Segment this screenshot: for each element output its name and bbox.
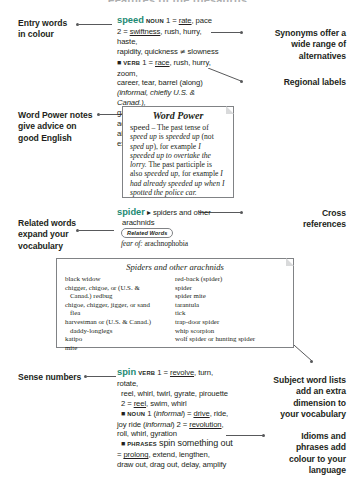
word-power-body: speed – The past tense of speed up is sp… bbox=[123, 123, 233, 200]
entry-spider-xref-cont[interactable]: arachnids bbox=[117, 218, 227, 228]
entry-spider: spider ▸ spiders and other arachnids bbox=[117, 208, 227, 228]
word-power-title: Word Power bbox=[123, 110, 233, 121]
entry-spin-phrases-line: ■ PHRASES spin something out bbox=[117, 439, 233, 450]
spiders-list-columns: black widowchigger, chigoe, or (U.S. &Ca… bbox=[57, 275, 293, 356]
entry-spin-phrase-def-2: draw out, drag out, delay, amplify bbox=[117, 460, 233, 470]
entry-spin-pos-noun-line: ■ NOUN 1 (informal) = drive, ride, bbox=[117, 409, 233, 420]
spiders-list-item: chigger, chigoe, or (U.S. & bbox=[65, 284, 175, 293]
related-words-pill[interactable]: Related Words bbox=[121, 228, 173, 238]
spiders-list-item: tarantula bbox=[175, 301, 285, 310]
entry-speed-pos-verb-line: ■ VERB 1 = race, rush, hurry, zoom, bbox=[117, 58, 222, 79]
word-power-headword: speed bbox=[130, 122, 150, 132]
entry-speed-sense-2: 2 = swiftness, rush, hurry, haste, bbox=[117, 27, 222, 47]
callout-related-words-line bbox=[79, 230, 114, 231]
related-fear-of-value: arachnophobia bbox=[143, 239, 188, 248]
thesaurus-features-diagram: Features of the thesaurus Entry words in… bbox=[0, 0, 355, 489]
spiders-list-box: Spiders and other arachnids black widowc… bbox=[56, 258, 294, 348]
pos-verb-spin: VERB bbox=[138, 370, 155, 376]
callout-subject-lists-label: Subject word lists add an extra dimensio… bbox=[273, 375, 346, 419]
headword-spider[interactable]: spider bbox=[117, 207, 145, 217]
spiders-list-title: Spiders and other arachnids bbox=[57, 262, 293, 272]
entry-speed-line-headword: speed NOUN 1 = rate, pace bbox=[117, 16, 222, 27]
entry-spin-noun-cont-1: joy ride (informal) 2 = revolution, bbox=[117, 420, 233, 430]
spiders-list-item: whip scorpion bbox=[175, 327, 285, 336]
callout-entry-words-label: Entry words in colour bbox=[18, 18, 67, 39]
entry-spin-verb-cont-1: reel, whirl, twirl, gyrate, pirouette bbox=[117, 389, 233, 399]
bullet-icon: ■ bbox=[121, 410, 125, 417]
entry-spin-phrase-head: spin something out bbox=[159, 438, 233, 448]
bullet-icon: ■ bbox=[117, 59, 121, 66]
entry-spider-related-text: fear of: arachnophobia bbox=[121, 239, 241, 249]
callout-regional: Regional labels bbox=[246, 77, 346, 88]
callout-entry-words: Entry words in colour bbox=[18, 18, 100, 41]
callout-related-words: Related words expand your vocabulary bbox=[18, 218, 100, 252]
spiders-list-item: black widow bbox=[65, 275, 175, 284]
spiders-list-item: tick bbox=[175, 309, 285, 318]
spiders-list-column-left: black widowchigger, chigoe, or (U.S. &Ca… bbox=[65, 275, 175, 352]
page-title: Features of the thesaurus bbox=[0, 0, 355, 2]
spiders-list-item: spider bbox=[175, 284, 285, 293]
callout-cross-references-label: Cross references bbox=[303, 208, 346, 229]
callout-sense-numbers-line bbox=[87, 376, 116, 377]
entry-speed-verb-cont-1: career, tear, barrel (along) bbox=[117, 78, 222, 88]
entry-spin-phrase-def-1: = prolong, extend, lengthen, bbox=[117, 450, 233, 460]
spiders-list-column-right: red-back (spider)spiderspider mitetarant… bbox=[175, 275, 285, 352]
callout-subject-lists: Subject word lists add an extra dimensio… bbox=[240, 375, 346, 421]
callout-cross-references: Cross references bbox=[246, 208, 346, 231]
entry-speed-sense-2-cont: rapidity, quickness ≠ slowness bbox=[117, 47, 222, 58]
related-fear-of-label: fear of: bbox=[121, 239, 143, 248]
spiders-list-item: Canad.) redbug bbox=[65, 292, 175, 301]
callout-idioms-label: Idioms and phrases add colour to your la… bbox=[289, 431, 346, 475]
spiders-list-item: spider mite bbox=[175, 292, 285, 301]
word-power-text: – The past tense of speed up is speeded … bbox=[130, 123, 224, 197]
entry-spin: spin VERB 1 = revolve, turn, rotate, ree… bbox=[117, 368, 233, 470]
callout-related-words-label: Related words expand your vocabulary bbox=[18, 218, 76, 251]
callout-sense-numbers-label: Sense numbers bbox=[18, 372, 81, 382]
headword-speed[interactable]: speed bbox=[117, 15, 144, 25]
spiders-list-item: katipo bbox=[65, 335, 175, 344]
entry-spin-noun-sense-1: 1 (informal) = drive, ride, bbox=[147, 409, 228, 418]
spiders-list-item: wolf spider or hunting spider bbox=[175, 335, 285, 344]
spiders-list-item: harvestman or (U.S. & Canad.) bbox=[65, 318, 175, 327]
spiders-list-item: mite bbox=[65, 344, 175, 353]
callout-synonyms-label: Synonyms offer a wide range of alternati… bbox=[275, 28, 346, 61]
pos-noun: NOUN bbox=[146, 18, 164, 24]
bullet-icon: ■ bbox=[121, 440, 125, 447]
entry-spin-verb-sense-2: 2 = reel, swim, whirl bbox=[117, 399, 233, 409]
callout-sense-numbers: Sense numbers bbox=[18, 372, 100, 383]
callout-entry-words-line bbox=[79, 24, 112, 25]
word-power-box-fold bbox=[226, 106, 234, 114]
callout-regional-label: Regional labels bbox=[284, 77, 346, 87]
spiders-list-item: daddy-longlegs bbox=[65, 327, 175, 336]
entry-spin-headline: spin VERB 1 = revolve, turn, rotate, bbox=[117, 368, 233, 389]
spiders-list-item: trap-door spider bbox=[175, 318, 285, 327]
pos-phrases: PHRASES bbox=[127, 441, 157, 447]
headword-spin[interactable]: spin bbox=[117, 367, 136, 377]
word-power-box: Word Power speed – The past tense of spe… bbox=[122, 106, 234, 198]
spiders-list-item: chigoe, chigger, jigger, or sand bbox=[65, 301, 175, 310]
entry-spider-headline: spider ▸ spiders and other bbox=[117, 208, 227, 218]
spiders-list-item: red-back (spider) bbox=[175, 275, 285, 284]
callout-word-power-label: Word Power notes give advice on good Eng… bbox=[18, 110, 92, 143]
callout-word-power: Word Power notes give advice on good Eng… bbox=[18, 110, 108, 144]
entry-spider-xref[interactable]: ▸ spiders and other bbox=[147, 208, 211, 217]
callout-idioms: Idioms and phrases add colour to your la… bbox=[240, 431, 346, 477]
pos-noun-spin: NOUN bbox=[127, 411, 145, 417]
spiders-list-box-fold bbox=[286, 258, 294, 266]
callout-synonyms: Synonyms offer a wide range of alternati… bbox=[246, 28, 346, 62]
spiders-list-item: flea bbox=[65, 309, 175, 318]
entry-speed-sense-1: 1 = rate, pace bbox=[166, 16, 212, 25]
pos-verb: VERB bbox=[123, 60, 140, 66]
